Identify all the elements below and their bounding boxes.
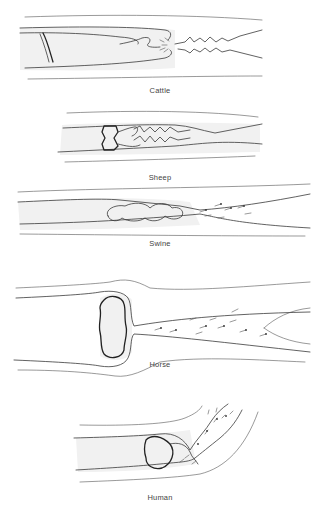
horse-drawing (0, 262, 320, 402)
panel-cattle: Cattle (0, 0, 320, 100)
label-cattle: Cattle (0, 86, 320, 95)
label-swine: Swine (0, 239, 320, 248)
panel-human: Human (0, 400, 320, 512)
label-horse: Horse (0, 360, 320, 369)
cattle-drawing (0, 0, 320, 100)
panel-horse: Horse (0, 262, 320, 402)
label-human: Human (0, 493, 320, 502)
